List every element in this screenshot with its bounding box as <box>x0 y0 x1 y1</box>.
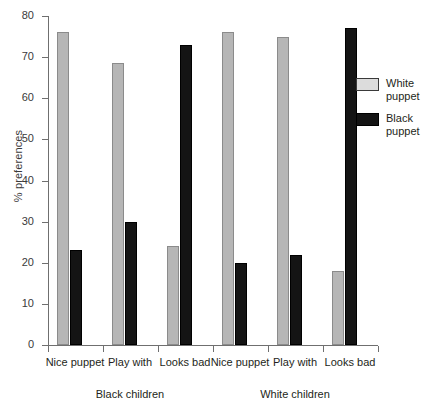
legend-swatch-black-puppet-icon <box>356 113 379 126</box>
legend-swatch-white-puppet-icon <box>356 78 379 91</box>
legend: White puppet Black puppet <box>356 77 436 147</box>
y-tick-label-70: 70 <box>22 50 34 62</box>
legend-label-black-puppet: Black puppet <box>386 112 436 138</box>
x-tick-5 <box>323 346 324 352</box>
x-category-label-2: Looks bad <box>160 356 211 369</box>
x-tick-6 <box>378 346 379 352</box>
y-tick-20: 20 <box>42 263 48 264</box>
y-tick-label-60: 60 <box>22 91 34 103</box>
y-tick-label-10: 10 <box>22 297 34 309</box>
x-tick-3 <box>213 346 214 352</box>
x-tick-1 <box>103 346 104 352</box>
y-tick-label-80: 80 <box>22 9 34 21</box>
bar-white-puppet-0 <box>57 32 69 345</box>
y-tick-40: 40 <box>42 181 48 182</box>
x-category-label-5: Looks bad <box>325 356 376 369</box>
bar-black-puppet-2 <box>180 45 192 345</box>
y-tick-30: 30 <box>42 222 48 223</box>
bar-black-puppet-5 <box>345 28 357 345</box>
bar-white-puppet-5 <box>332 271 344 345</box>
x-group-label-white-children: White children <box>260 388 330 400</box>
legend-item-black-puppet: Black puppet <box>356 112 436 140</box>
y-tick-70: 70 <box>42 57 48 58</box>
y-tick-label-30: 30 <box>22 215 34 227</box>
bar-chart: % preferences 80 70 60 50 40 30 20 10 0 <box>0 0 437 400</box>
plot-area: 80 70 60 50 40 30 20 10 0 <box>48 16 378 345</box>
x-tick-0 <box>48 346 49 352</box>
bar-black-puppet-3 <box>235 263 247 345</box>
legend-label-white-puppet: White puppet <box>386 77 436 103</box>
bar-black-puppet-1 <box>125 222 137 345</box>
y-tick-label-40: 40 <box>22 174 34 186</box>
y-axis-line <box>48 16 49 345</box>
x-category-label-3: Nice puppet <box>211 356 270 369</box>
bar-white-puppet-2 <box>167 246 179 345</box>
x-tick-4 <box>268 346 269 352</box>
x-group-label-black-children: Black children <box>96 388 164 400</box>
bar-black-puppet-4 <box>290 255 302 345</box>
y-tick-label-0: 0 <box>28 338 34 350</box>
x-tick-2 <box>158 346 159 352</box>
x-category-label-4: Play with <box>273 356 317 369</box>
y-tick-80: 80 <box>42 16 48 17</box>
y-tick-60: 60 <box>42 98 48 99</box>
y-tick-10: 10 <box>42 304 48 305</box>
y-tick-50: 50 <box>42 139 48 140</box>
bar-white-puppet-4 <box>277 37 289 345</box>
bar-white-puppet-3 <box>222 32 234 345</box>
legend-item-white-puppet: White puppet <box>356 77 436 105</box>
bar-white-puppet-1 <box>112 63 124 345</box>
bar-black-puppet-0 <box>70 250 82 345</box>
x-category-label-1: Play with <box>108 356 152 369</box>
y-tick-label-50: 50 <box>22 132 34 144</box>
y-axis-label: % preferences <box>12 101 24 231</box>
y-tick-label-20: 20 <box>22 256 34 268</box>
x-category-label-0: Nice puppet <box>46 356 105 369</box>
